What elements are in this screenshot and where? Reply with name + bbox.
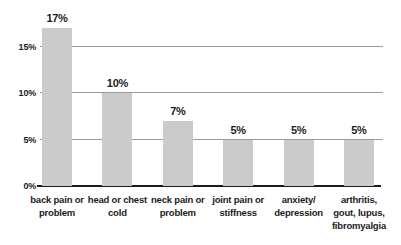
y-tick-label: 5%	[0, 135, 36, 145]
bar-value-label: 7%	[170, 105, 185, 117]
bar-value-label: 5%	[231, 124, 246, 136]
bar-value-label: 5%	[351, 124, 366, 136]
y-tick-label: 10%	[0, 88, 36, 98]
bar	[344, 140, 374, 187]
bar-chart: 0%5%10%15% 17%10%7%5%5%5% back pain or p…	[0, 0, 401, 245]
bars-row: 17%10%7%5%5%5%	[42, 0, 374, 186]
bar-slot: 5%	[344, 0, 374, 186]
label-slot: back pain or problem	[42, 193, 72, 238]
label-slot: anxiety/ depression	[284, 193, 314, 238]
bar-slot: 5%	[223, 0, 253, 186]
y-axis-labels: 0%5%10%15%	[0, 0, 36, 186]
category-label: arthritis, gout, lupus, fibromyalgia	[322, 193, 396, 232]
bar	[284, 140, 314, 187]
label-slot: head or chest cold	[102, 193, 132, 238]
bar-value-label: 17%	[46, 12, 67, 24]
bar-slot: 17%	[42, 0, 72, 186]
y-tick-label: 15%	[0, 42, 36, 52]
bar	[223, 140, 253, 187]
bar-slot: 7%	[163, 0, 193, 186]
bar	[42, 28, 72, 186]
bar	[163, 121, 193, 186]
label-slot: arthritis, gout, lupus, fibromyalgia	[344, 193, 374, 238]
bar	[102, 93, 132, 186]
label-slot: joint pain or stiffness	[223, 193, 253, 238]
bar-slot: 5%	[284, 0, 314, 186]
bar-value-label: 10%	[107, 77, 128, 89]
label-slot: neck pain or problem	[163, 193, 193, 238]
bar-slot: 10%	[102, 0, 132, 186]
bar-value-label: 5%	[291, 124, 306, 136]
y-tick-label: 0%	[0, 181, 36, 191]
category-labels-row: back pain or problemhead or chest coldne…	[42, 193, 374, 238]
